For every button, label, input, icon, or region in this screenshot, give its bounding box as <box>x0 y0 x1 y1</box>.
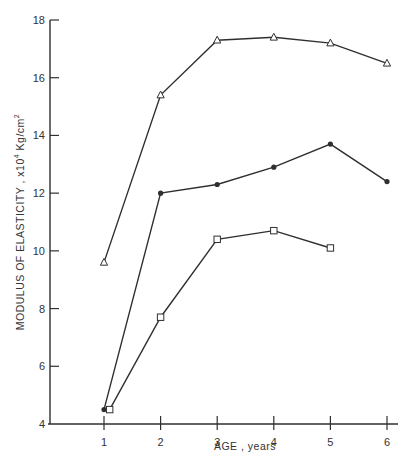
series-square <box>106 227 333 412</box>
y-tick-label: 12 <box>33 187 45 199</box>
square-marker <box>214 236 220 242</box>
circle-marker <box>271 165 276 170</box>
circle-marker <box>215 182 220 187</box>
square-marker <box>106 406 112 412</box>
x-tick-label: 5 <box>327 436 333 448</box>
triangle-marker <box>270 33 277 40</box>
x-tick-label: 2 <box>158 436 164 448</box>
x-tick-label: 6 <box>384 436 390 448</box>
axes: 4681012141618123456 <box>33 14 398 448</box>
y-tick-label: 18 <box>33 14 45 26</box>
chart: 4681012141618123456 AGE , years MODULUS … <box>0 0 414 465</box>
x-tick-label: 1 <box>101 436 107 448</box>
square-marker <box>271 227 277 233</box>
y-tick-label: 8 <box>39 303 45 315</box>
square-marker <box>327 245 333 251</box>
triangle-marker <box>100 258 107 265</box>
circle-marker <box>384 179 389 184</box>
series-circle <box>101 141 389 412</box>
series-triangle <box>100 33 390 265</box>
y-tick-label: 10 <box>33 245 45 257</box>
x-axis-label: AGE , years <box>214 440 276 452</box>
y-tick-label: 14 <box>33 129 45 141</box>
series-group <box>100 33 390 412</box>
y-tick-label: 4 <box>39 418 45 430</box>
series-line <box>110 231 331 410</box>
series-line <box>104 144 387 409</box>
y-axis-label: MODULUS OF ELASTICITY , x104 Kg/cm2 <box>13 114 26 331</box>
series-line <box>104 37 387 262</box>
circle-marker <box>101 407 106 412</box>
square-marker <box>157 314 163 320</box>
y-tick-label: 6 <box>39 360 45 372</box>
y-tick-label: 16 <box>33 72 45 84</box>
circle-marker <box>328 141 333 146</box>
circle-marker <box>158 191 163 196</box>
